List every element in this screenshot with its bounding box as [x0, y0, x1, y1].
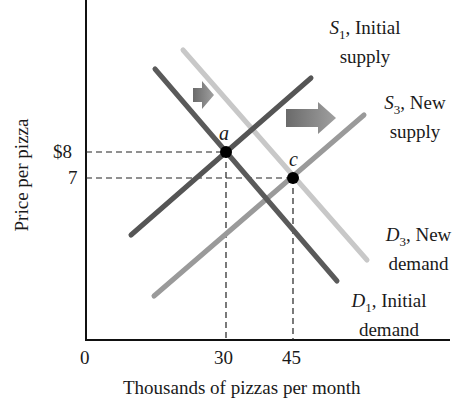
- d1-label: D1, Initial demand: [334, 290, 444, 341]
- y-axis-title: Price per pizza: [11, 119, 33, 232]
- s1-desc2: supply: [340, 46, 391, 67]
- supply-curve-s1: [131, 78, 311, 235]
- equilibrium-point-c: [287, 172, 299, 184]
- s3-symbol: S: [384, 92, 394, 113]
- d1-symbol: D: [351, 290, 365, 311]
- x-tick-30: 30: [214, 348, 233, 368]
- point-c-label: c: [289, 149, 298, 169]
- d3-desc: , New: [406, 224, 451, 245]
- d3-symbol: D: [386, 224, 400, 245]
- s3-label: S3, New supply: [360, 92, 468, 143]
- equilibrium-point-a: [220, 146, 232, 158]
- demand-curve-d3: [183, 50, 367, 260]
- d3-desc2: demand: [388, 253, 448, 274]
- demand-curve-d1: [155, 69, 337, 281]
- y-tick-7: 7: [68, 168, 78, 188]
- d1-desc: , Initial: [372, 290, 427, 311]
- s3-desc2: supply: [390, 121, 441, 142]
- y-tick-8: $8: [53, 142, 72, 162]
- d1-desc2: demand: [359, 319, 419, 340]
- s1-desc: , Initial: [346, 17, 401, 38]
- supply-curve-s3: [154, 115, 364, 296]
- x-tick-45: 45: [282, 348, 301, 368]
- s1-label: S1, Initial supply: [300, 17, 430, 68]
- x-axis-title: Thousands of pizzas per month: [123, 377, 360, 399]
- supply-shift-arrow-icon: [286, 102, 336, 134]
- x-tick-0: 0: [80, 348, 90, 368]
- point-a-label: a: [219, 123, 229, 143]
- d3-label: D3, New demand: [366, 224, 468, 275]
- s1-symbol: S: [330, 17, 340, 38]
- s3-desc: , New: [400, 92, 445, 113]
